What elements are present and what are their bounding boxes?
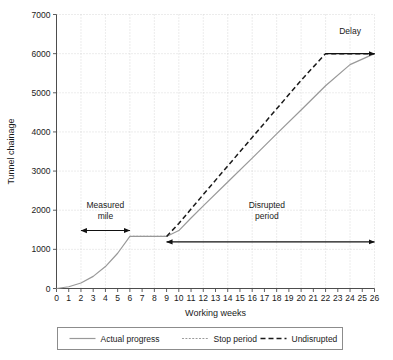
x-tick-label: 7 xyxy=(140,293,145,303)
y-axis-title: Tunnel chainage xyxy=(6,118,16,184)
x-tick-label: 12 xyxy=(199,293,209,303)
annotation-label: period xyxy=(255,211,279,221)
y-tick-label: 1000 xyxy=(32,244,51,254)
x-tick-label: 9 xyxy=(164,293,169,303)
annotation-delay: Delay xyxy=(326,26,375,54)
x-tick-label: 6 xyxy=(128,293,133,303)
axes xyxy=(53,15,375,293)
legend-label: Actual progress xyxy=(101,334,160,344)
x-tick-label: 10 xyxy=(174,293,184,303)
x-tick-label: 0 xyxy=(54,293,59,303)
grid-lines xyxy=(57,15,375,289)
x-tick-label: 3 xyxy=(91,293,96,303)
x-tick-labels: 0123456789101112131415161718192021222324… xyxy=(54,293,379,303)
legend-label: Stop period xyxy=(214,334,258,344)
y-tick-label: 7000 xyxy=(32,10,51,20)
x-tick-label: 5 xyxy=(115,293,120,303)
y-tick-label: 4000 xyxy=(32,127,51,137)
x-tick-label: 2 xyxy=(79,293,84,303)
annotation-disrupted-period: Disruptedperiod xyxy=(167,200,375,242)
x-tick-label: 23 xyxy=(333,293,343,303)
legend-label: Undisrupted xyxy=(292,334,338,344)
chart-legend: Actual progressStop periodUndisrupted xyxy=(58,328,343,350)
tunnel-chainage-line-chart: 0123456789101112131415161718192021222324… xyxy=(0,0,393,360)
y-tick-labels: 01000200030004000500060007000 xyxy=(32,10,51,294)
x-tick-label: 20 xyxy=(296,293,306,303)
y-tick-label: 6000 xyxy=(32,49,51,59)
chart-figure: 0123456789101112131415161718192021222324… xyxy=(0,0,393,360)
x-tick-label: 1 xyxy=(66,293,71,303)
y-tick-label: 3000 xyxy=(32,166,51,176)
annotation-label: Delay xyxy=(339,26,361,36)
x-tick-label: 13 xyxy=(211,293,221,303)
x-tick-label: 17 xyxy=(260,293,270,303)
y-tick-label: 5000 xyxy=(32,88,51,98)
x-tick-label: 15 xyxy=(235,293,245,303)
x-tick-label: 8 xyxy=(152,293,157,303)
y-tick-label: 2000 xyxy=(32,205,51,215)
x-tick-label: 26 xyxy=(370,293,380,303)
x-tick-label: 22 xyxy=(321,293,331,303)
annotation-label: Measured xyxy=(87,200,125,210)
x-tick-label: 14 xyxy=(223,293,233,303)
y-tick-label: 0 xyxy=(46,284,51,294)
x-tick-label: 24 xyxy=(345,293,355,303)
x-tick-label: 18 xyxy=(272,293,282,303)
x-tick-label: 16 xyxy=(247,293,257,303)
annotation-measured-mile: Measuredmile xyxy=(81,200,130,230)
x-tick-label: 4 xyxy=(103,293,108,303)
x-tick-label: 21 xyxy=(309,293,319,303)
x-tick-label: 19 xyxy=(284,293,294,303)
x-axis-title: Working weeks xyxy=(185,308,246,318)
x-tick-label: 11 xyxy=(187,293,196,303)
annotation-label: Disrupted xyxy=(249,200,286,210)
annotation-label: mile xyxy=(98,211,114,221)
x-tick-label: 25 xyxy=(358,293,368,303)
